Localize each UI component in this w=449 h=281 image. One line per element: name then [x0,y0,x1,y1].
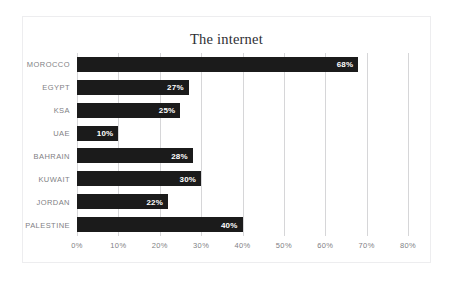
x-tick-40: 40% [234,241,250,250]
category-label-palestine: PALESTINE [25,220,70,229]
x-tick-30: 30% [193,241,209,250]
chart-frame: The internet MOROCCO68%EGYPT27%KSA25%UAE… [22,16,431,263]
bar-row: BAHRAIN28% [77,148,408,163]
category-label-egypt: EGYPT [42,83,70,92]
bar-value-jordan: 22% [146,197,163,206]
x-tick-60: 60% [317,241,333,250]
category-label-kuwait: KUWAIT [38,174,70,183]
category-label-uae: UAE [53,129,70,138]
bar-kuwait[interactable]: 30% [77,171,201,186]
x-tick-10: 10% [110,241,126,250]
x-tick-80: 80% [400,241,416,250]
category-label-bahrain: BAHRAIN [34,151,71,160]
x-tick-50: 50% [276,241,292,250]
x-tick-0: 0% [71,241,83,250]
plot-area: MOROCCO68%EGYPT27%KSA25%UAE10%BAHRAIN28%… [77,53,408,236]
bar-row: UAE10% [77,126,408,141]
bar-row: JORDAN22% [77,194,408,209]
bar-value-ksa: 25% [159,106,176,115]
category-label-morocco: MOROCCO [27,60,70,69]
bar-row: KUWAIT30% [77,171,408,186]
x-tick-20: 20% [152,241,168,250]
bar-value-uae: 10% [97,129,114,138]
bar-value-kuwait: 30% [180,174,197,183]
chart-title: The internet [23,31,430,48]
gridline-80 [408,53,409,236]
bar-row: PALESTINE40% [77,217,408,232]
bar-row: MOROCCO68% [77,57,408,72]
bar-row: EGYPT27% [77,80,408,95]
bar-uae[interactable]: 10% [77,126,118,141]
bar-ksa[interactable]: 25% [77,103,180,118]
bar-bahrain[interactable]: 28% [77,148,193,163]
category-label-jordan: JORDAN [36,197,70,206]
bar-morocco[interactable]: 68% [77,57,358,72]
bar-egypt[interactable]: 27% [77,80,189,95]
category-label-ksa: KSA [54,106,70,115]
bar-jordan[interactable]: 22% [77,194,168,209]
x-tick-70: 70% [359,241,375,250]
bar-value-bahrain: 28% [171,151,188,160]
bar-value-palestine: 40% [221,220,238,229]
bar-value-egypt: 27% [167,83,184,92]
bar-value-morocco: 68% [337,60,354,69]
bar-palestine[interactable]: 40% [77,217,243,232]
bar-row: KSA25% [77,103,408,118]
